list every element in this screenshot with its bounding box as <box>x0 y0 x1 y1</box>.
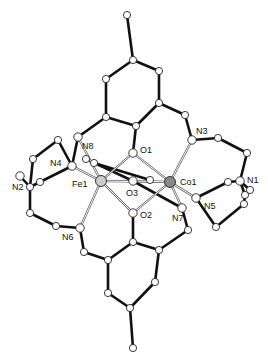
bond-B1-B2 <box>133 242 159 250</box>
atom-O3 <box>129 177 137 185</box>
bond-C4-N8 <box>78 117 106 137</box>
atom-N4 <box>68 162 76 170</box>
atom-O1 <box>129 149 137 157</box>
label-N2: N2 <box>12 182 24 192</box>
atom-B3 <box>104 256 111 263</box>
label-N3: N3 <box>196 126 208 136</box>
bond-C1-C2 <box>106 60 133 79</box>
atom-C24 <box>184 226 191 233</box>
bond-C20-C19 <box>30 213 56 226</box>
bond-C15-N4 <box>40 166 72 182</box>
atom-N5 <box>192 194 200 202</box>
bond-C4-C6 <box>106 117 136 126</box>
atom-C2 <box>102 75 109 82</box>
atom-C9 <box>243 149 250 156</box>
atom-C7 <box>181 111 188 118</box>
label-O2: O2 <box>140 210 152 220</box>
atom-C3 <box>155 67 162 74</box>
atom-C8 <box>214 134 221 141</box>
atom-C18 <box>146 176 153 183</box>
atom-C17 <box>90 159 97 166</box>
atom-O2 <box>129 209 137 217</box>
atom-C13 <box>29 155 36 162</box>
bond-B5-B6 <box>130 282 155 308</box>
atom-C12 <box>54 136 61 143</box>
atom-B2 <box>155 246 162 253</box>
coord-bond-inner-Co1-N3 <box>170 140 192 182</box>
atom-C21 <box>212 223 219 230</box>
atom-C25 <box>80 248 87 255</box>
atom-C15 <box>36 178 43 185</box>
bond-B2-C24 <box>159 230 188 250</box>
atom-C11 <box>224 178 231 185</box>
bond-C13-C14 <box>30 159 33 187</box>
atom-C6 <box>132 122 139 129</box>
atom-B6 <box>126 304 133 311</box>
atom-N7 <box>178 204 186 212</box>
label-Co1: Co1 <box>180 177 197 187</box>
atom-C22 <box>240 200 247 207</box>
atom-C4 <box>102 113 109 120</box>
molecular-structure-diagram: N3 O1 N8 N4 N2 Fe1 O3 Co1 N1 N5 N7 O2 N6 <box>0 0 268 364</box>
bond-B6-Me2 <box>130 308 133 348</box>
label-O1: O1 <box>140 145 152 155</box>
label-N7: N7 <box>172 213 184 223</box>
label-N1: N1 <box>247 175 259 185</box>
bond-B2-B5 <box>155 250 159 282</box>
label-N5: N5 <box>204 201 216 211</box>
atom-Me1 <box>123 11 130 18</box>
bond-C5-C6 <box>136 103 159 126</box>
atom-C5 <box>155 99 162 106</box>
atom-C20 <box>26 209 33 216</box>
label-O3: O3 <box>126 188 138 198</box>
atom-N2 <box>16 172 24 180</box>
label-N6: N6 <box>62 232 74 242</box>
atom-B1 <box>129 238 136 245</box>
atom-C16 <box>82 155 89 162</box>
atom-C19 <box>52 222 59 229</box>
bond-B1-B3 <box>108 242 133 260</box>
atom-N8 <box>74 133 82 141</box>
atom-B4 <box>104 289 111 296</box>
atom-Fe1 <box>96 176 107 187</box>
atom-N6 <box>76 224 84 232</box>
atom-B5 <box>151 278 158 285</box>
atom-N3 <box>188 136 196 144</box>
bond-C21-C22 <box>216 204 244 227</box>
bond-C8-C9 <box>218 138 247 153</box>
atom-C1 <box>129 56 136 63</box>
bond-C11-N5 <box>196 182 228 198</box>
atom-C14 <box>26 183 33 190</box>
atom-C23 <box>241 191 248 198</box>
atom-N1 <box>236 177 244 185</box>
bond-Me1-C1 <box>127 15 133 60</box>
atom-Co1 <box>165 177 176 188</box>
label-N8: N8 <box>82 141 94 151</box>
bond-C12-C13 <box>33 140 58 159</box>
atom-Me2 <box>129 344 136 351</box>
bond-C5-C7 <box>159 103 185 115</box>
label-Fe1: Fe1 <box>72 179 88 189</box>
bond-C1-C3 <box>133 60 159 71</box>
label-N4: N4 <box>50 158 62 168</box>
